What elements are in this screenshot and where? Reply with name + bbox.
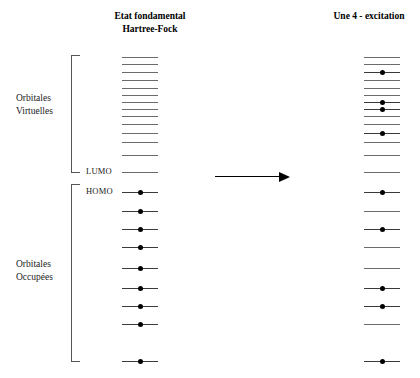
electron-right-16	[380, 227, 385, 232]
energy-level-right-4	[364, 88, 400, 89]
energy-level-left-11	[122, 142, 158, 143]
group-label-virtual-line2: Virtuelles	[16, 105, 53, 118]
electron-right-14	[380, 190, 385, 195]
arrow-shaft	[215, 176, 281, 177]
level-tag-lumo: LUMO	[86, 166, 112, 176]
energy-level-left-4	[122, 88, 158, 89]
group-label-occupied-line2: Occupées	[16, 271, 53, 284]
electron-right-19	[380, 286, 385, 291]
electron-right-20	[380, 304, 385, 309]
energy-level-left-13	[122, 172, 158, 173]
energy-level-right-13	[364, 172, 400, 173]
energy-level-left-6	[122, 102, 158, 103]
electron-right-6	[380, 100, 385, 105]
level-tag-homo: HOMO	[86, 186, 113, 196]
energy-level-right-0	[364, 57, 400, 58]
electron-right-10	[380, 131, 385, 136]
electron-left-17	[138, 245, 143, 250]
energy-level-right-11	[364, 142, 400, 143]
energy-level-right-12	[364, 155, 400, 156]
energy-level-left-7	[122, 109, 158, 110]
energy-level-left-8	[122, 116, 158, 117]
arrow-head-icon	[279, 172, 290, 182]
energy-level-right-15	[364, 211, 400, 212]
electron-left-20	[138, 304, 143, 309]
electron-right-7	[380, 107, 385, 112]
left-column-title: Etat fondamental Hartree-Fock	[95, 10, 205, 36]
electron-left-16	[138, 227, 143, 232]
energy-level-right-5	[364, 95, 400, 96]
energy-level-right-1	[364, 64, 400, 65]
orbital-energy-diagram: Etat fondamental Hartree-Fock Une 4 - ex…	[0, 0, 420, 378]
right-column-title: Une 4 - excitation	[318, 10, 420, 23]
energy-level-left-5	[122, 95, 158, 96]
energy-level-left-10	[122, 133, 158, 134]
energy-level-right-21	[364, 324, 400, 325]
electron-left-14	[138, 190, 143, 195]
electron-left-21	[138, 322, 143, 327]
left-column-title-line1: Etat fondamental	[95, 10, 205, 23]
energy-level-right-9	[364, 124, 400, 125]
bracket-virtual-orbitals	[71, 55, 80, 173]
energy-level-left-12	[122, 155, 158, 156]
left-column-title-line2: Hartree-Fock	[95, 23, 205, 36]
electron-right-22	[380, 359, 385, 364]
energy-level-left-9	[122, 124, 158, 125]
electron-left-15	[138, 209, 143, 214]
electron-left-19	[138, 286, 143, 291]
bracket-occupied-orbitals	[71, 184, 80, 362]
electron-left-18	[138, 266, 143, 271]
energy-level-left-1	[122, 64, 158, 65]
electron-right-2	[380, 70, 385, 75]
energy-level-left-3	[122, 80, 158, 81]
energy-level-right-3	[364, 80, 400, 81]
energy-level-left-2	[122, 72, 158, 73]
energy-level-right-18	[364, 268, 400, 269]
group-label-occupied-orbitals: Orbitales Occupées	[16, 258, 53, 284]
group-label-virtual-orbitals: Orbitales Virtuelles	[16, 92, 53, 118]
energy-level-left-0	[122, 57, 158, 58]
electron-left-22	[138, 359, 143, 364]
group-label-occupied-line1: Orbitales	[16, 258, 53, 271]
energy-level-right-8	[364, 116, 400, 117]
group-label-virtual-line1: Orbitales	[16, 92, 53, 105]
energy-level-right-17	[364, 247, 400, 248]
